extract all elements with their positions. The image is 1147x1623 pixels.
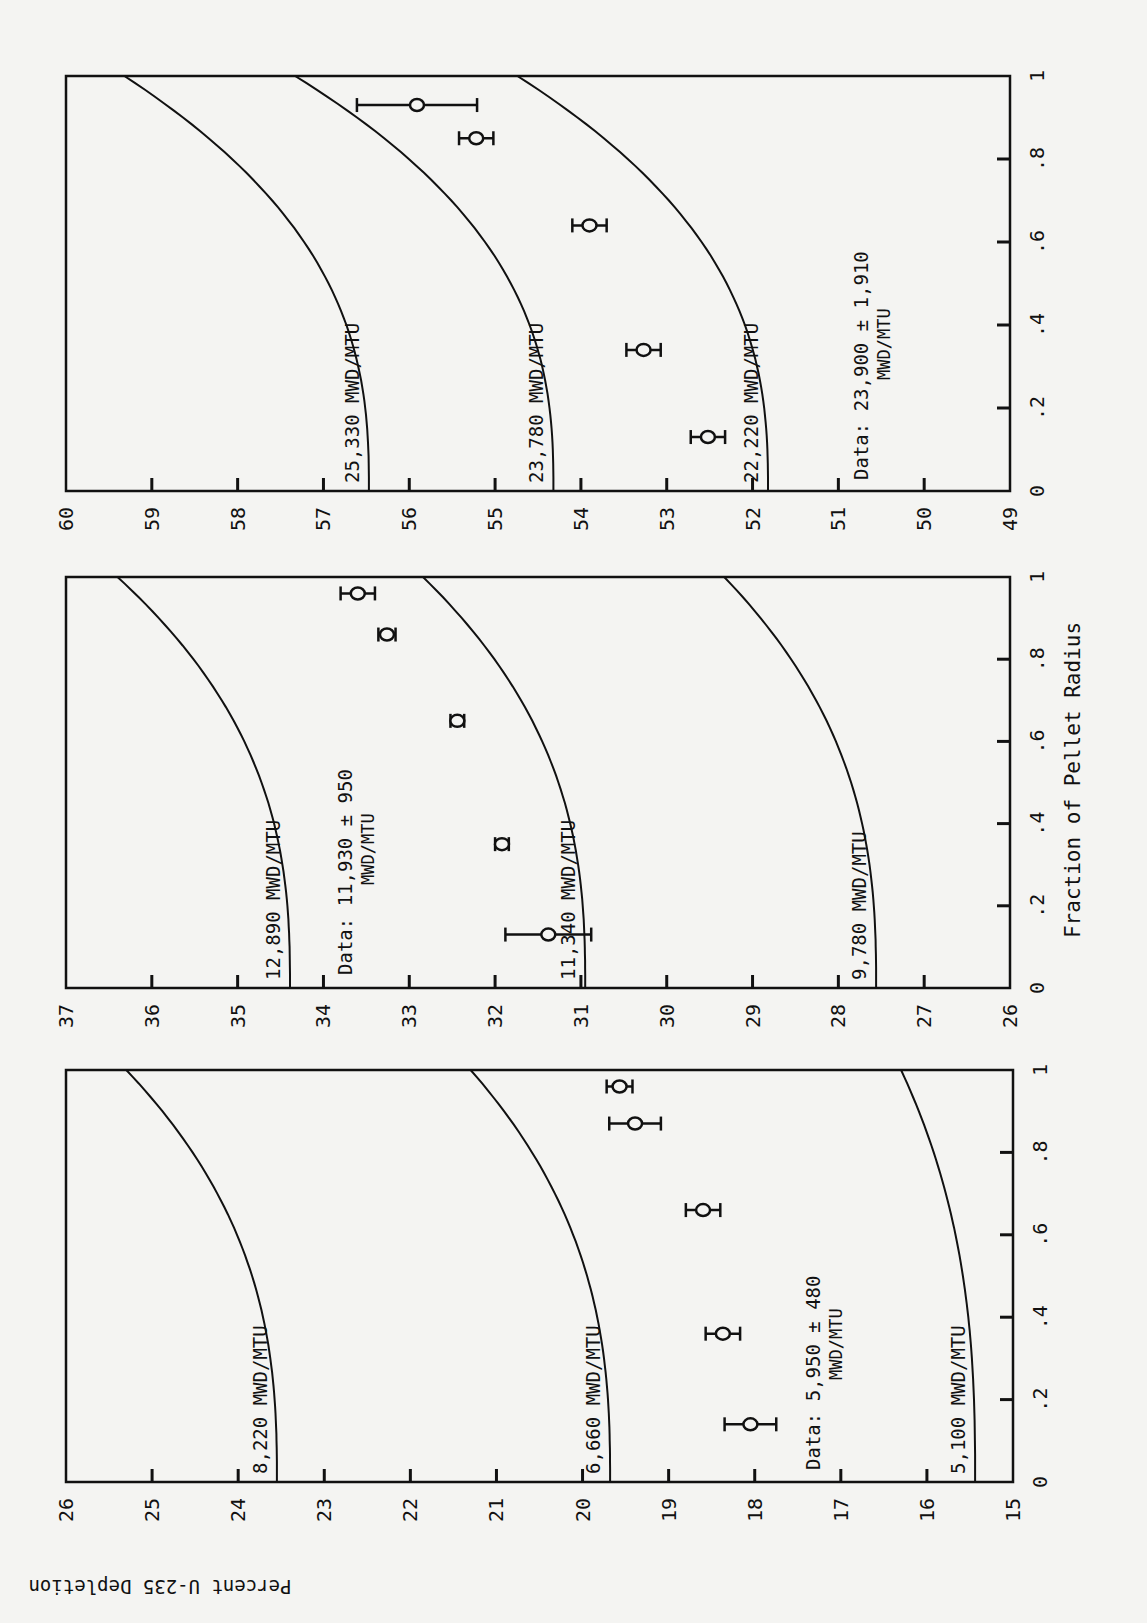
chart-panels: 1516171819202122232425260.2.4.6.818,220 … (54, 70, 1052, 1522)
y-tick-label: 56 (397, 507, 421, 531)
y-tick-label: 57 (311, 507, 335, 531)
x-tick-label: .4 (1025, 313, 1049, 337)
x-tick-label: 0 (1025, 982, 1049, 994)
y-tick-label: 16 (915, 1498, 939, 1522)
y-tick-label: 18 (743, 1498, 767, 1522)
y-tick-label: 17 (829, 1498, 853, 1522)
y-tick-label: 35 (226, 1004, 250, 1028)
y-tick-label: 19 (657, 1498, 681, 1522)
y-tick-label: 54 (569, 507, 593, 531)
data-point (706, 1327, 740, 1341)
theory-curve (124, 76, 369, 491)
y-tick-label: 21 (484, 1498, 508, 1522)
y-tick-label: 58 (226, 507, 250, 531)
data-point (691, 430, 725, 444)
x-tick-label: .2 (1025, 396, 1049, 420)
y-tick-label: 26 (54, 1498, 78, 1522)
y-tick-label: 33 (397, 1004, 421, 1028)
data-point (725, 1417, 777, 1431)
chart-panel-1: 1516171819202122232425260.2.4.6.818,220 … (54, 1064, 1052, 1522)
data-point (686, 1203, 720, 1217)
x-tick-label: 0 (1025, 485, 1049, 497)
y-tick-label: 27 (912, 1004, 936, 1028)
x-tick-label: .8 (1028, 1140, 1052, 1164)
x-tick-label: .2 (1025, 894, 1049, 918)
x-axis-title: Fraction of Pellet Radius (1061, 622, 1085, 938)
data-point (626, 343, 660, 357)
x-tick-label: .6 (1025, 230, 1049, 254)
data-point (341, 586, 375, 600)
curve-label: 9,780 MWD/MTU (848, 831, 870, 980)
data-point (459, 131, 493, 145)
theory-curve (517, 76, 768, 491)
x-tick-label: 1 (1028, 1064, 1052, 1076)
y-tick-label: 50 (912, 507, 936, 531)
y-tick-label: 55 (483, 507, 507, 531)
curve-label: 8,220 MWD/MTU (249, 1325, 271, 1474)
x-tick-label: 1 (1025, 70, 1049, 82)
y-tick-label: 20 (571, 1498, 595, 1522)
data-point (357, 98, 477, 112)
x-tick-label: .2 (1028, 1388, 1052, 1412)
chart-panel-2: 2627282930313233343536370.2.4.6.8112,890… (54, 571, 1049, 1028)
curve-label: 5,100 MWD/MTU (947, 1325, 969, 1474)
y-tick-label: 22 (398, 1498, 422, 1522)
y-tick-label: 59 (140, 507, 164, 531)
rotated-figure: 1516171819202122232425260.2.4.6.818,220 … (0, 0, 1147, 1623)
data-point (572, 218, 606, 232)
x-tick-label: .6 (1025, 729, 1049, 753)
data-point (450, 714, 464, 728)
data-summary-units: MWD/MTU (826, 1308, 846, 1380)
y-tick-label: 37 (54, 1004, 78, 1028)
data-summary-units: MWD/MTU (358, 813, 378, 885)
chart-panel-3: 4950515253545556575859600.2.4.6.8125,330… (54, 70, 1049, 531)
y-tick-label: 31 (569, 1004, 593, 1028)
y-tick-label: 52 (741, 507, 765, 531)
x-tick-label: .8 (1025, 147, 1049, 171)
curve-label: 23,780 MWD/MTU (525, 323, 547, 483)
data-summary-label: Data: 11,930 ± 950 (334, 769, 356, 975)
data-summary-label: Data: 5,950 ± 480 (802, 1276, 824, 1470)
x-tick-label: .8 (1025, 647, 1049, 671)
y-axis-title: Percent U-235 Depletion (28, 1576, 291, 1598)
x-tick-label: .4 (1025, 812, 1049, 836)
y-tick-label: 32 (483, 1004, 507, 1028)
curve-label: 12,890 MWD/MTU (262, 820, 284, 980)
curve-label: 11,340 MWD/MTU (557, 820, 579, 980)
y-tick-label: 51 (826, 507, 850, 531)
depletion-chart-figure: 1516171819202122232425260.2.4.6.818,220 … (0, 0, 1147, 1623)
y-tick-label: 60 (54, 507, 78, 531)
x-tick-label: .6 (1028, 1223, 1052, 1247)
y-tick-label: 29 (741, 1004, 765, 1028)
y-tick-label: 30 (655, 1004, 679, 1028)
y-tick-label: 15 (1001, 1498, 1025, 1522)
data-point (609, 1117, 661, 1131)
plot-frame (66, 1070, 1013, 1482)
x-tick-label: 0 (1028, 1476, 1052, 1488)
curve-label: 25,330 MWD/MTU (341, 323, 363, 483)
curve-label: 6,660 MWD/MTU (582, 1325, 604, 1474)
y-tick-label: 49 (998, 507, 1022, 531)
y-tick-label: 36 (140, 1004, 164, 1028)
y-tick-label: 28 (826, 1004, 850, 1028)
curve-label: 22,220 MWD/MTU (740, 323, 762, 483)
data-point (378, 628, 395, 642)
data-point (607, 1079, 633, 1093)
y-tick-label: 26 (998, 1004, 1022, 1028)
data-point (495, 837, 509, 851)
data-summary-label: Data: 23,900 ± 1,910 (850, 251, 872, 480)
y-tick-label: 25 (140, 1498, 164, 1522)
y-tick-label: 53 (655, 507, 679, 531)
y-tick-label: 23 (312, 1498, 336, 1522)
x-tick-label: 1 (1025, 571, 1049, 583)
theory-curve (295, 76, 553, 491)
data-summary-units: MWD/MTU (874, 308, 894, 380)
y-tick-label: 34 (311, 1004, 335, 1028)
x-tick-label: .4 (1028, 1305, 1052, 1329)
y-tick-label: 24 (226, 1498, 250, 1522)
